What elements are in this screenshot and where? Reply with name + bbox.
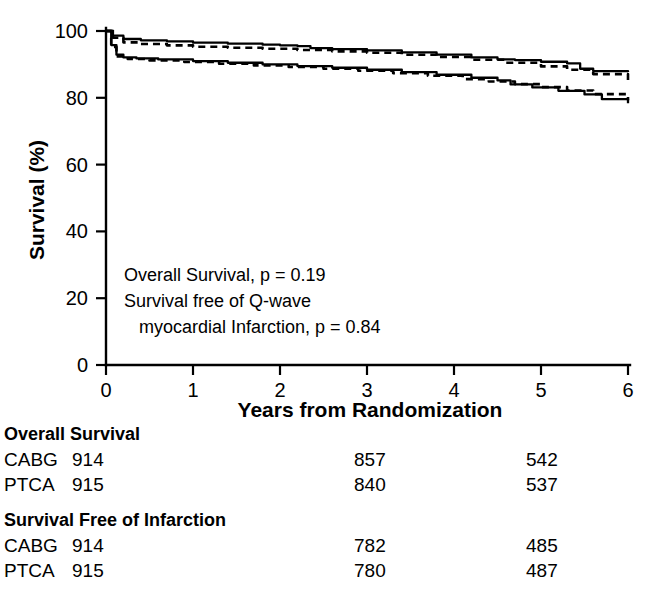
row-value-year0: 914 [72, 533, 354, 558]
risk-section-overall-survival: Overall Survival CABG 914 857 542 PTCA 9… [0, 424, 655, 497]
row-value-year5: 487 [526, 558, 646, 583]
annotation-line-2: Survival free of Q-wave [124, 291, 311, 311]
row-value-year5: 485 [526, 533, 646, 558]
x-tick-0: 0 [100, 379, 111, 401]
y-tick-60: 60 [66, 154, 88, 176]
p-value-annotations: Overall Survival, p = 0.19 Survival free… [124, 265, 381, 337]
table-row: CABG 914 782 485 [0, 533, 655, 558]
x-tick-5: 5 [535, 379, 546, 401]
x-tick-1: 1 [187, 379, 198, 401]
y-tick-100: 100 [55, 20, 88, 42]
risk-section-survival-free-of-infarction: Survival Free of Infarction CABG 914 782… [0, 510, 655, 583]
annotation-line-3: myocardial Infarction, p = 0.84 [139, 317, 381, 337]
y-axis-title: Survival (%) [25, 140, 48, 260]
table-row: PTCA 915 840 537 [0, 472, 655, 497]
numbers-at-risk-table: Overall Survival CABG 914 857 542 PTCA 9… [0, 424, 655, 583]
y-tick-80: 80 [66, 87, 88, 109]
row-value-year5: 542 [526, 447, 646, 472]
risk-section-title: Survival Free of Infarction [0, 510, 655, 533]
row-value-year3: 782 [354, 533, 526, 558]
x-axis-ticks [106, 365, 628, 375]
y-tick-0: 0 [77, 354, 88, 376]
y-tick-20: 20 [66, 287, 88, 309]
risk-section-title: Overall Survival [0, 424, 655, 447]
x-tick-6: 6 [622, 379, 633, 401]
row-label: PTCA [0, 472, 72, 497]
x-axis-title: Years from Randomization [238, 398, 503, 420]
row-value-year0: 915 [72, 558, 354, 583]
y-axis-ticks [96, 31, 106, 365]
row-value-year3: 780 [354, 558, 526, 583]
row-value-year5: 537 [526, 472, 646, 497]
row-label: CABG [0, 447, 72, 472]
row-value-year3: 857 [354, 447, 526, 472]
y-axis-tick-labels: 100 80 60 40 20 0 [55, 20, 88, 376]
annotation-line-1: Overall Survival, p = 0.19 [124, 265, 326, 285]
survival-figure: 100 80 60 40 20 0 0 1 2 3 4 5 6 Years [0, 0, 655, 591]
table-row: CABG 914 857 542 [0, 447, 655, 472]
row-label: PTCA [0, 558, 72, 583]
kaplan-meier-plot: 100 80 60 40 20 0 0 1 2 3 4 5 6 Years [0, 0, 655, 420]
table-section-spacer [0, 497, 655, 510]
row-value-year0: 915 [72, 472, 354, 497]
survival-curve-1 [106, 31, 628, 80]
y-tick-40: 40 [66, 220, 88, 242]
row-label: CABG [0, 533, 72, 558]
survival-curves [106, 31, 628, 103]
row-value-year0: 914 [72, 447, 354, 472]
row-value-year3: 840 [354, 472, 526, 497]
table-row: PTCA 915 780 487 [0, 558, 655, 583]
